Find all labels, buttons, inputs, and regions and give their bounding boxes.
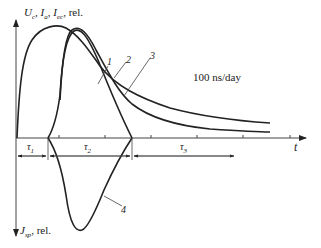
label-i1-sub: a <box>44 13 48 21</box>
label-j-sub: sp <box>25 231 31 239</box>
y-axis-bottom-label: Jsp, rel. <box>20 224 51 239</box>
diagram-canvas <box>0 0 321 248</box>
label-u: U <box>24 6 32 18</box>
curve-label-1: 1 <box>107 56 112 67</box>
annotation-time-scale: 100 ns/day <box>193 71 241 83</box>
curve-label-2: 2 <box>126 54 131 65</box>
t-axis-label: t <box>294 140 297 155</box>
curve-label-3: 3 <box>150 50 155 61</box>
interval-tau3: τ3 <box>180 141 187 155</box>
interval-tau2: τ2 <box>84 141 91 155</box>
interval-tau1: τ1 <box>27 141 34 155</box>
tau2-sub: 2 <box>88 147 92 155</box>
tau1-sub: 1 <box>31 147 35 155</box>
label-rel: rel. <box>69 6 83 18</box>
tau3-sub: 3 <box>184 147 188 155</box>
label-u-sub: c <box>32 13 35 21</box>
label-i2-sub: ec <box>57 13 63 21</box>
label-rel-bottom: rel. <box>37 224 51 236</box>
curve-label-4: 4 <box>121 204 126 215</box>
y-axis-top-label: Uc, Ia, Iec, rel. <box>24 6 83 21</box>
